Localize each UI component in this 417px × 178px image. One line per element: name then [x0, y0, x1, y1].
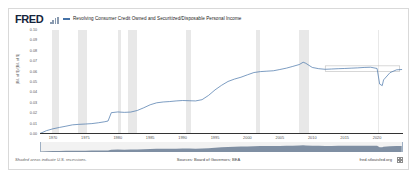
- x-tick-label: 1980: [113, 135, 122, 140]
- bar-chart-mark-icon: [50, 17, 58, 24]
- range-navigator[interactable]: [40, 142, 403, 152]
- x-tick-label: 1970: [49, 135, 58, 140]
- y-tick-label: 0.01: [30, 122, 37, 126]
- navigator-handle-right[interactable]: [402, 142, 403, 152]
- y-axis-tick-labels: 0.000.010.020.030.040.050.060.070.080.09…: [17, 30, 38, 134]
- y-tick-label: 0.04: [30, 90, 37, 94]
- x-tick-label: 1990: [178, 135, 187, 140]
- x-tick-label: 2015: [340, 135, 349, 140]
- y-tick-label: 0.07: [30, 59, 37, 63]
- y-tick-label: 0.03: [30, 101, 37, 105]
- y-tick-label: 0.02: [30, 111, 37, 115]
- y-tick-label: 0.08: [30, 49, 37, 53]
- y-axis-title: (Bil. of $)/(Bil. of $): [16, 46, 20, 92]
- navigator-handle-left[interactable]: [40, 142, 41, 152]
- x-tick-label: 1995: [211, 135, 220, 140]
- fred-chart-card: FRED Revolving Consumer Credit Owned and…: [8, 8, 409, 170]
- x-tick-label: 1975: [81, 135, 90, 140]
- y-tick-label: 0.05: [30, 80, 37, 84]
- y-tick-label: 0.09: [30, 38, 37, 42]
- expand-corners-icon[interactable]: [397, 157, 403, 163]
- x-tick-label: 2005: [276, 135, 285, 140]
- fred-url-label[interactable]: fred.stlouisfed.org: [359, 157, 392, 163]
- series-line-path: [40, 62, 402, 133]
- y-tick-label: 0.06: [30, 70, 37, 74]
- navigator-area-path: [40, 145, 402, 152]
- x-tick-label: 2000: [243, 135, 252, 140]
- series-line-chart: [40, 30, 403, 134]
- chart-legend[interactable]: Revolving Consumer Credit Owned and Secu…: [63, 14, 241, 24]
- legend-color-swatch: [63, 18, 70, 19]
- fred-logo[interactable]: FRED: [15, 14, 43, 25]
- y-tick-label: 0.10: [30, 28, 37, 32]
- chart-footer: Shaded areas indicate U.S. recessions. S…: [9, 154, 408, 170]
- x-tick-label: 2010: [308, 135, 317, 140]
- chart-header: FRED Revolving Consumer Credit Owned and…: [9, 9, 408, 29]
- legend-series-label: Revolving Consumer Credit Owned and Secu…: [73, 16, 241, 22]
- source-note: Sources: Board of Governors; BEA: [9, 157, 408, 163]
- y-tick-label: 0.00: [30, 132, 37, 136]
- x-tick-label: 2020: [373, 135, 382, 140]
- x-tick-label: 1985: [146, 135, 155, 140]
- navigator-mini-chart: [40, 142, 403, 152]
- chart-plot-area[interactable]: [40, 30, 403, 134]
